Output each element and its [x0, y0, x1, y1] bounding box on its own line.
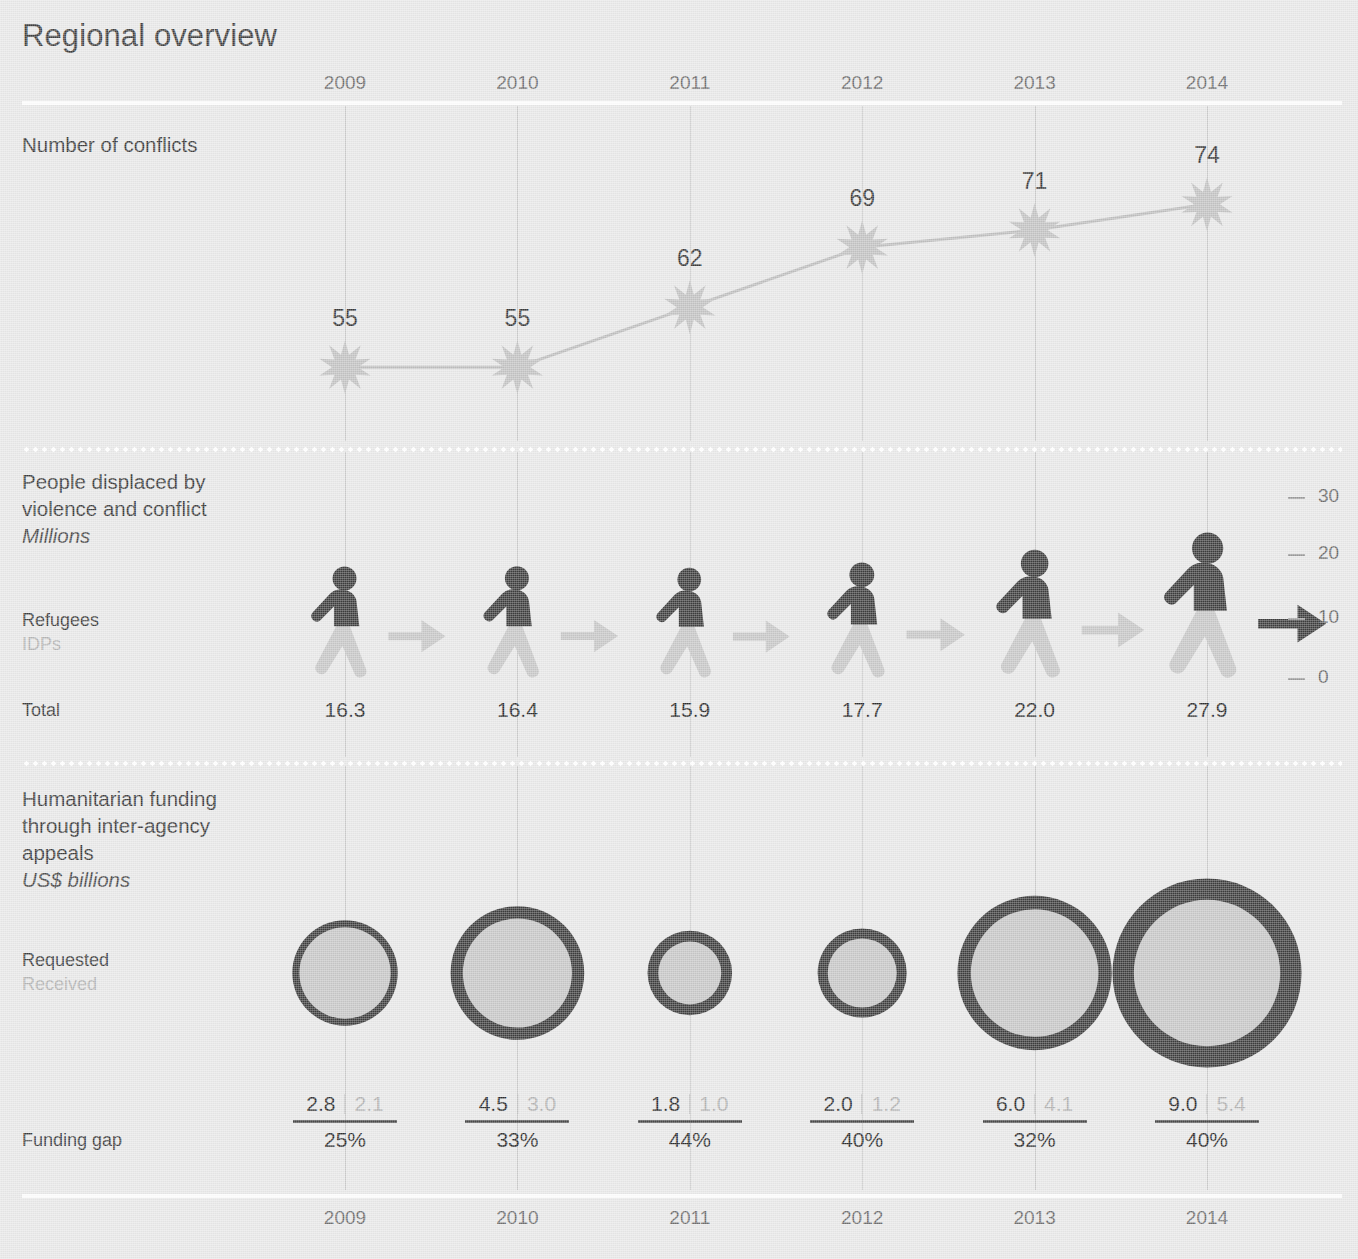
- displacement-tick-dash-20: [1288, 554, 1305, 556]
- year-label-2012: 2012: [841, 72, 883, 94]
- funding-underline-2011: [638, 1120, 742, 1123]
- conflict-value-2012: 69: [849, 185, 875, 212]
- conflict-line-segment: [690, 247, 862, 307]
- funding-gap-2014: 40%: [1186, 1128, 1228, 1152]
- funding-underline-2014: [1155, 1120, 1259, 1123]
- displacement-tick-dash-0: [1288, 678, 1305, 680]
- requested-value-2010: 4.5: [479, 1092, 508, 1115]
- requested-value-2011: 1.8: [651, 1092, 680, 1115]
- funding-received-circle-2012: [828, 938, 897, 1007]
- migration-arrow-2014: [1258, 605, 1326, 643]
- funding-underline-2012: [810, 1120, 914, 1123]
- person-figure-2009: [311, 567, 366, 678]
- funding-received-circle-2013: [971, 909, 1099, 1037]
- conflict-line-segment: [1035, 204, 1207, 230]
- funding-values-2012: 2.01.2: [823, 1092, 900, 1116]
- year-label-2013: 2013: [1013, 1207, 1055, 1229]
- funding-values-2014: 9.05.4: [1168, 1092, 1245, 1116]
- funding-underline-2009: [293, 1120, 397, 1123]
- conflict-line-segment: [517, 307, 689, 367]
- conflict-value-2014: 74: [1194, 142, 1220, 169]
- migration-arrow-2011: [733, 621, 790, 653]
- year-label-2014: 2014: [1186, 1207, 1228, 1229]
- conflict-marker-2011: [664, 280, 715, 334]
- conflict-value-2009: 55: [332, 305, 358, 332]
- displacement-tick-dash-10: [1288, 618, 1305, 620]
- funding-received-circle-2014: [1134, 900, 1280, 1046]
- person-figure-2014: [1164, 533, 1236, 678]
- total-value-2013: 22.0: [1014, 698, 1055, 722]
- funding-underline-2010: [465, 1120, 569, 1123]
- conflicts-line-chart: [0, 110, 1358, 440]
- received-value-2010: 3.0: [527, 1092, 556, 1115]
- year-label-2010: 2010: [496, 72, 538, 94]
- funding-gap-2013: 32%: [1014, 1128, 1056, 1152]
- funding-received-circle-2010: [463, 918, 572, 1027]
- person-figure-2012: [827, 562, 884, 677]
- received-value-2009: 2.1: [355, 1092, 384, 1115]
- funding-gap-2010: 33%: [496, 1128, 538, 1152]
- displacement-tick-10: 10: [1318, 606, 1339, 628]
- funding-values-2010: 4.53.0: [479, 1092, 556, 1116]
- conflict-value-2011: 62: [677, 245, 703, 272]
- received-value-2013: 4.1: [1044, 1092, 1073, 1115]
- divider-bottom: [22, 1194, 1342, 1198]
- requested-value-2014: 9.0: [1168, 1092, 1197, 1115]
- value-separator: [689, 1094, 690, 1114]
- displacement-tick-0: 0: [1318, 666, 1329, 688]
- value-separator: [345, 1094, 346, 1114]
- conflict-line-segment: [862, 230, 1034, 247]
- year-label-2011: 2011: [669, 72, 710, 94]
- funding-bubble-chart: [0, 760, 1358, 1180]
- conflict-marker-2014: [1181, 177, 1232, 231]
- page-title: Regional overview: [22, 18, 277, 54]
- total-value-2010: 16.4: [497, 698, 538, 722]
- funding-underline-2013: [983, 1120, 1087, 1123]
- divider-top: [22, 101, 1342, 105]
- year-label-2011: 2011: [669, 1207, 710, 1229]
- value-separator: [517, 1094, 518, 1114]
- total-value-2014: 27.9: [1187, 698, 1228, 722]
- funding-received-circle-2009: [299, 927, 390, 1018]
- year-label-2013: 2013: [1013, 72, 1055, 94]
- infographic-root: Regional overview 2009201020112012201320…: [0, 0, 1358, 1259]
- requested-value-2013: 6.0: [996, 1092, 1025, 1115]
- funding-values-2009: 2.82.1: [306, 1092, 383, 1116]
- person-figure-2011: [656, 568, 711, 678]
- displacement-tick-30: 30: [1318, 485, 1339, 507]
- displacement-tick-dash-30: [1288, 497, 1305, 499]
- received-value-2012: 1.2: [872, 1092, 901, 1115]
- migration-arrow-2009: [388, 620, 445, 652]
- year-label-2009: 2009: [324, 72, 366, 94]
- funding-received-circle-2011: [658, 942, 721, 1005]
- migration-arrow-2010: [561, 620, 618, 652]
- migration-arrow-2013: [1082, 612, 1145, 647]
- conflict-value-2010: 55: [505, 305, 531, 332]
- total-value-2012: 17.7: [842, 698, 883, 722]
- value-separator: [1207, 1094, 1208, 1114]
- person-figure-2013: [996, 550, 1059, 678]
- year-label-2009: 2009: [324, 1207, 366, 1229]
- total-value-2011: 15.9: [669, 698, 710, 722]
- funding-values-2011: 1.81.0: [651, 1092, 728, 1116]
- person-figure-2010: [484, 566, 539, 677]
- funding-gap-2009: 25%: [324, 1128, 366, 1152]
- funding-values-2013: 6.04.1: [996, 1092, 1073, 1116]
- value-separator: [862, 1094, 863, 1114]
- conflict-marker-2013: [1009, 203, 1060, 257]
- year-label-2014: 2014: [1186, 72, 1228, 94]
- year-label-2010: 2010: [496, 1207, 538, 1229]
- requested-value-2009: 2.8: [306, 1092, 335, 1115]
- requested-value-2012: 2.0: [823, 1092, 852, 1115]
- conflict-marker-2012: [837, 220, 888, 274]
- received-value-2011: 1.0: [699, 1092, 728, 1115]
- displacement-tick-20: 20: [1318, 542, 1339, 564]
- total-value-2009: 16.3: [325, 698, 366, 722]
- migration-arrow-2012: [906, 618, 964, 651]
- year-label-2012: 2012: [841, 1207, 883, 1229]
- value-separator: [1034, 1094, 1035, 1114]
- conflict-value-2013: 71: [1022, 168, 1048, 195]
- funding-gap-2011: 44%: [669, 1128, 711, 1152]
- received-value-2014: 5.4: [1217, 1092, 1246, 1115]
- funding-gap-2012: 40%: [841, 1128, 883, 1152]
